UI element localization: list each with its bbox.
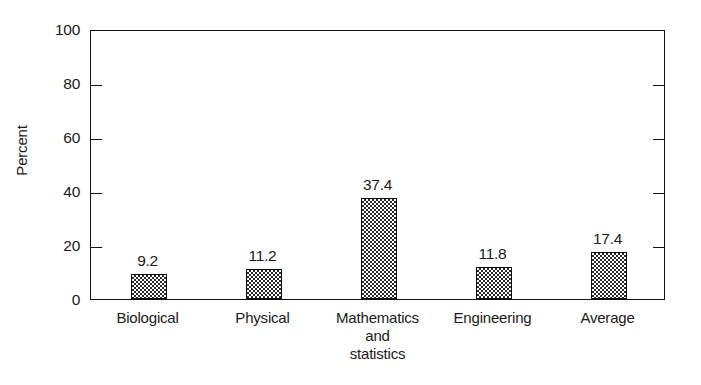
bar-value-label: 37.4 bbox=[333, 177, 423, 193]
y-tick-label: 80 bbox=[38, 76, 80, 92]
y-tick-mark-right bbox=[653, 193, 664, 194]
y-axis-title: Percent bbox=[13, 111, 30, 191]
bar bbox=[246, 269, 282, 299]
y-tick-mark-left bbox=[91, 85, 102, 86]
bar bbox=[476, 267, 512, 299]
y-tick-label: 0 bbox=[38, 292, 80, 308]
x-axis-category-label: Mathematics and statistics bbox=[313, 309, 443, 363]
x-axis-category-label: Biological bbox=[83, 309, 213, 327]
y-tick-mark-right bbox=[653, 139, 664, 140]
y-tick-mark-left bbox=[91, 139, 102, 140]
y-tick-mark-left bbox=[91, 247, 102, 248]
y-tick-label: 40 bbox=[38, 184, 80, 200]
bar-chart-figure: Percent 9.211.237.411.817.4 BiologicalPh… bbox=[0, 0, 701, 385]
y-tick-mark-right bbox=[653, 85, 664, 86]
y-tick-label: 20 bbox=[38, 238, 80, 254]
x-axis-category-label: Physical bbox=[198, 309, 328, 327]
bar-value-label: 17.4 bbox=[563, 231, 653, 247]
bar-value-label: 11.2 bbox=[218, 248, 308, 264]
y-tick-mark-left bbox=[91, 193, 102, 194]
bar bbox=[361, 198, 397, 299]
x-axis-category-label: Average bbox=[543, 309, 673, 327]
bar bbox=[131, 274, 167, 299]
bar bbox=[591, 252, 627, 299]
bar-value-label: 11.8 bbox=[448, 246, 538, 262]
y-tick-label: 100 bbox=[38, 22, 80, 38]
y-tick-mark-right bbox=[653, 247, 664, 248]
x-axis-category-label: Engineering bbox=[428, 309, 558, 327]
y-tick-label: 60 bbox=[38, 130, 80, 146]
bar-value-label: 9.2 bbox=[103, 253, 193, 269]
